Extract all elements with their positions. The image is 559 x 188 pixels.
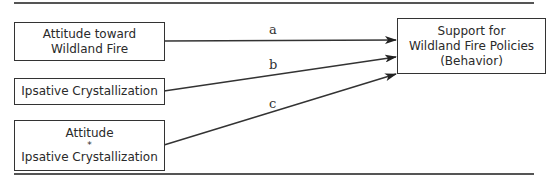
node-attitude: Attitude toward Wildland Fire xyxy=(14,22,165,61)
arrow-a xyxy=(164,40,396,41)
node-outcome-line-1: Support for xyxy=(438,24,506,39)
node-ipsative-line-1: Ipsative Crystallization xyxy=(21,84,157,99)
node-outcome-line-3: (Behavior) xyxy=(440,54,503,69)
node-interaction: Attitude * Ipsative Crystallization xyxy=(14,120,165,171)
node-attitude-line-1: Attitude toward xyxy=(43,27,136,42)
node-ipsative: Ipsative Crystallization xyxy=(14,78,165,105)
node-interaction-line-1: Attitude xyxy=(65,126,113,141)
edge-label-c: c xyxy=(269,96,276,111)
arrow-c xyxy=(164,74,396,145)
node-outcome-line-2: Wildland Fire Policies xyxy=(409,39,534,54)
interaction-asterisk: * xyxy=(87,141,92,150)
node-attitude-line-2: Wildland Fire xyxy=(51,42,128,57)
node-outcome: Support for Wildland Fire Policies (Beha… xyxy=(397,18,546,74)
edge-label-a: a xyxy=(269,22,277,37)
arrow-b xyxy=(164,57,396,91)
node-interaction-line-3: Ipsative Crystallization xyxy=(21,150,157,165)
edge-label-b: b xyxy=(269,57,277,72)
